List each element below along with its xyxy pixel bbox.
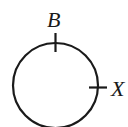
circle [13, 43, 98, 127]
label-x: X [110, 76, 126, 101]
label-b: B [47, 7, 60, 32]
diagram-canvas: B X [0, 0, 128, 127]
